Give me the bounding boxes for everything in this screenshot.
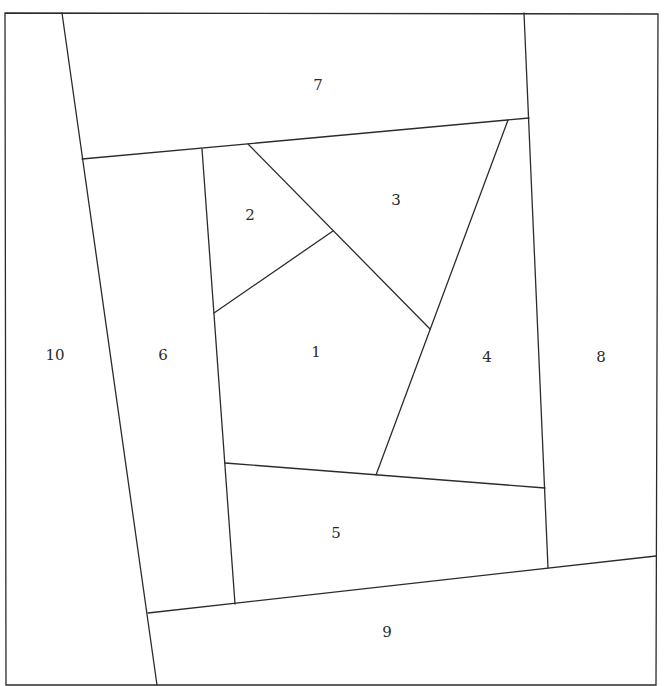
seam-2-3 — [248, 144, 430, 329]
piece-label-8: 8 — [596, 348, 606, 366]
seam-5-top — [225, 463, 545, 488]
piece-label-6: 6 — [158, 346, 168, 364]
piece-label-2: 2 — [245, 206, 255, 224]
piece-label-3: 3 — [391, 191, 401, 209]
seam-lines — [62, 13, 656, 685]
seam-10-edge — [62, 13, 157, 685]
seam-3-4 — [376, 120, 508, 475]
piece-label-1: 1 — [311, 343, 321, 361]
seam-9-top — [148, 556, 656, 613]
quilt-block-diagram — [0, 0, 665, 686]
seam-8-left — [524, 13, 548, 568]
piece-label-9: 9 — [382, 623, 392, 641]
piece-label-5: 5 — [331, 524, 341, 542]
block-border — [5, 13, 658, 685]
seam-6-right — [202, 149, 235, 604]
piece-label-10: 10 — [45, 346, 64, 364]
seam-2-1 — [214, 231, 333, 313]
piece-label-4: 4 — [482, 348, 492, 366]
piece-label-7: 7 — [313, 76, 323, 94]
seam-7-bottom — [82, 118, 529, 159]
